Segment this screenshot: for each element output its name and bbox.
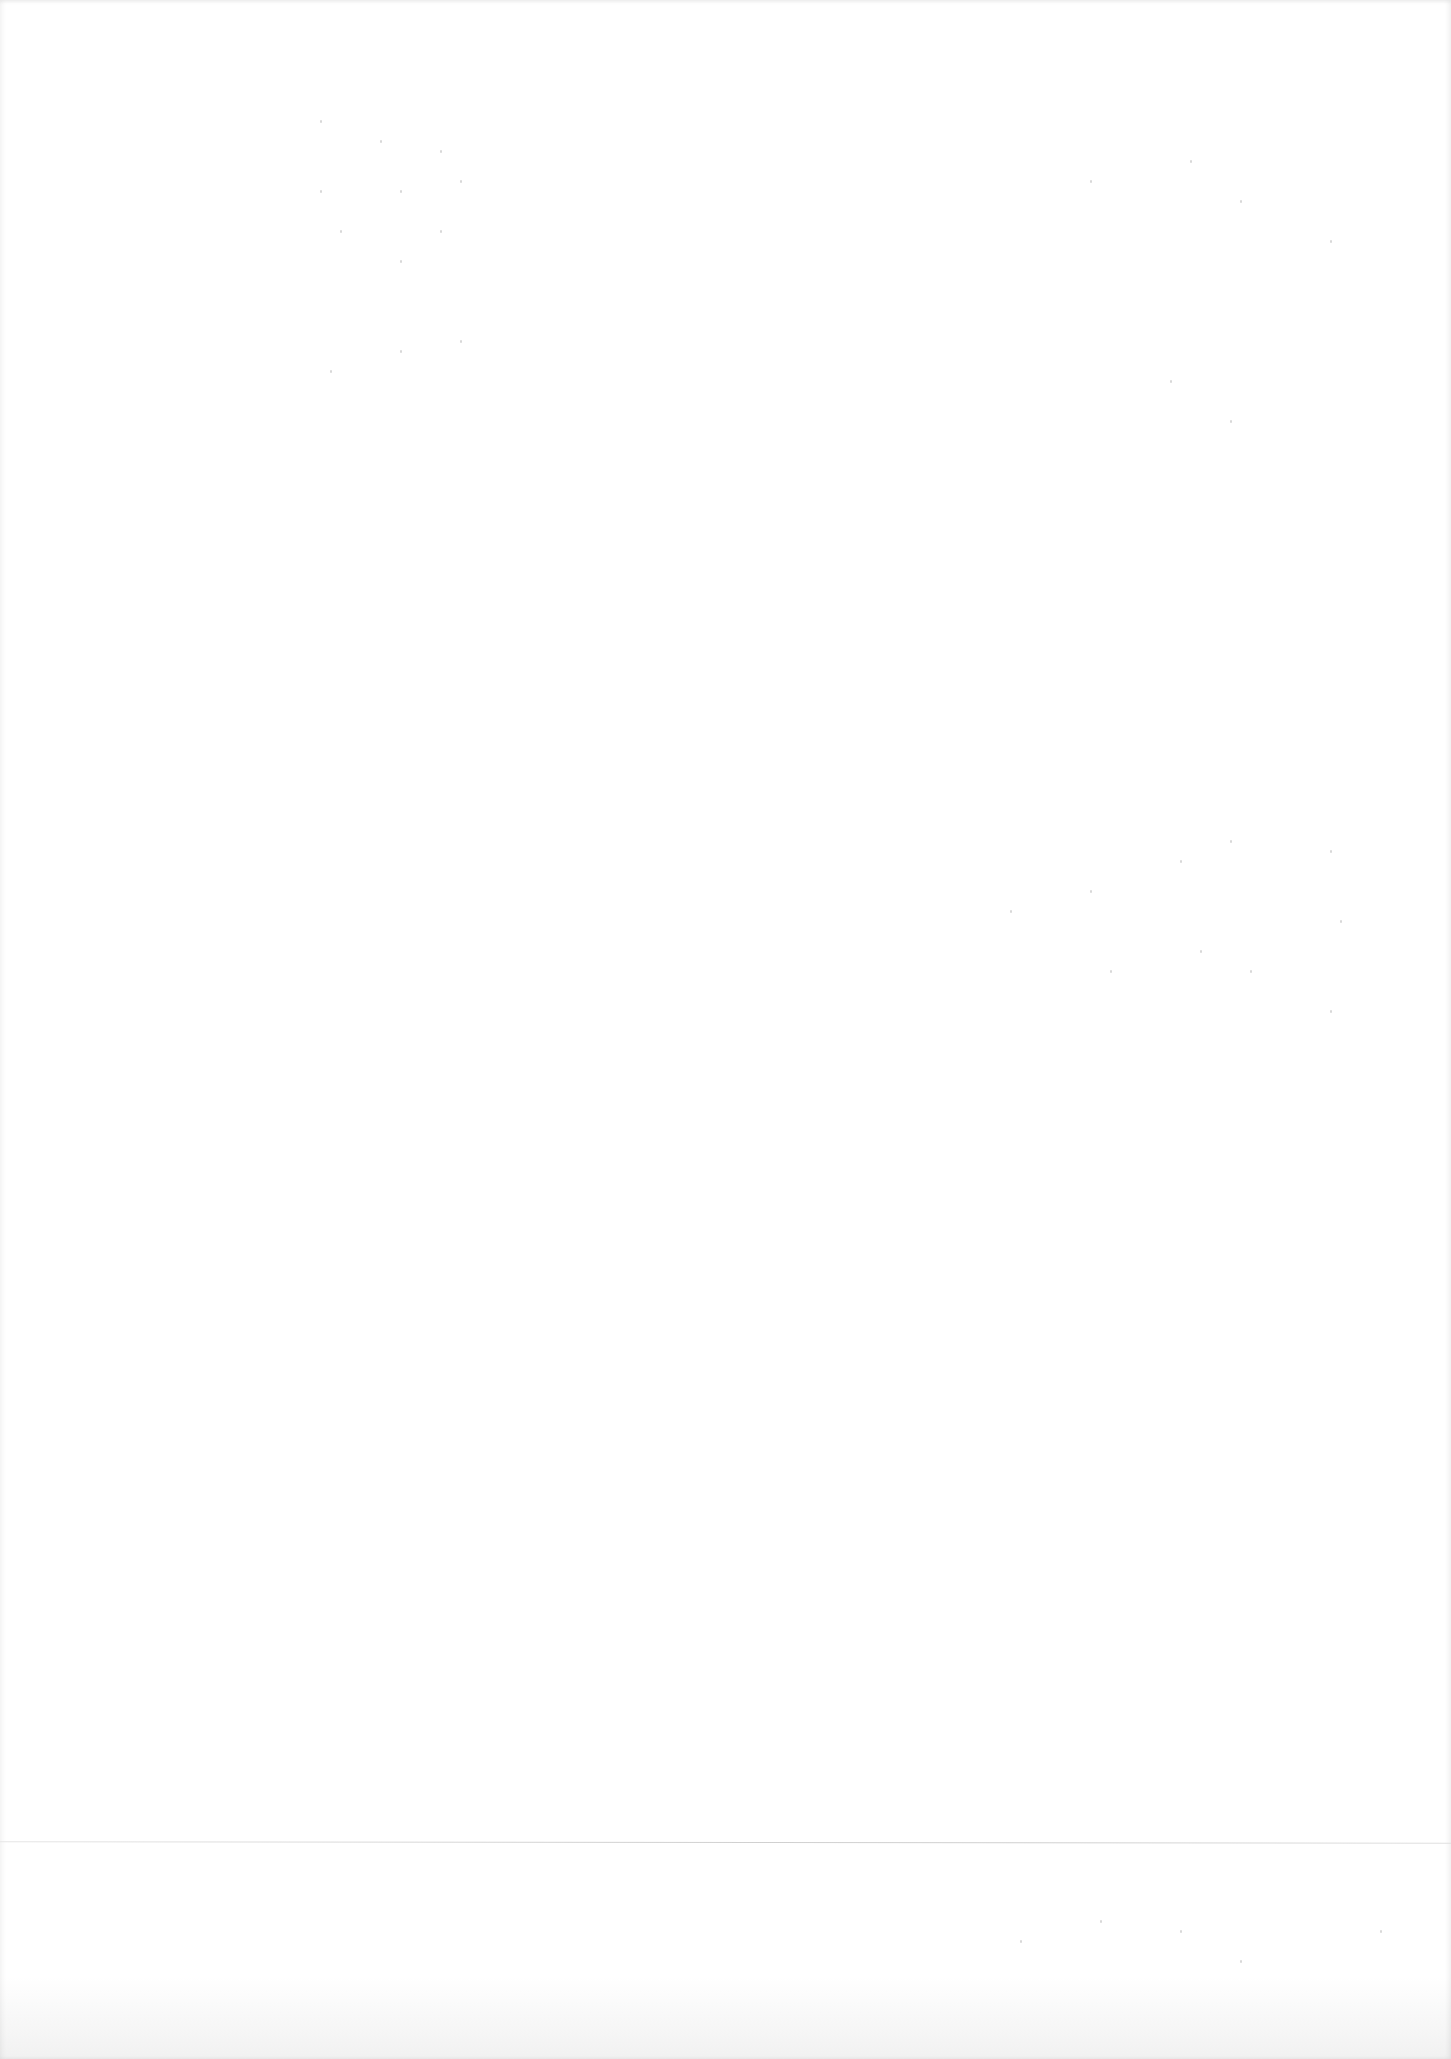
bleed-through-marks-bottom	[1000, 1900, 1420, 2020]
blank-page	[0, 0, 1451, 2059]
bleed-through-marks-top-left	[310, 80, 480, 390]
bleed-through-marks-right	[1000, 820, 1380, 1040]
bleed-through-marks-top-right	[1000, 140, 1400, 460]
fold-line	[0, 1841, 1451, 1843]
